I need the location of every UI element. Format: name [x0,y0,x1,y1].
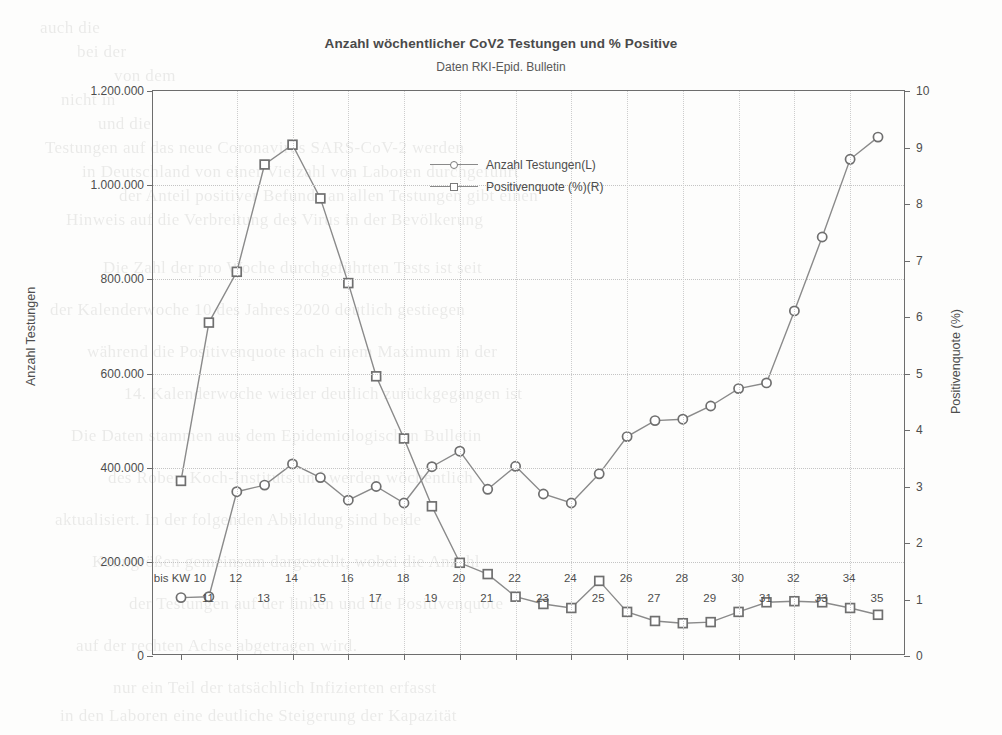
y-axis-tick-left [147,656,153,657]
x-axis-tick-label: 35 [871,592,884,604]
series-line-positivenquote [181,145,878,624]
x-axis-tick-label: 19 [425,592,438,604]
data-point-marker [316,194,325,203]
gridline-horizontal [153,562,904,563]
y-axis-tick-right [904,317,910,318]
y-axis-tick-label-left: 0 [24,649,144,663]
data-point-marker [205,318,214,327]
y-axis-tick-label-right: 3 [916,480,976,494]
y-axis-tick-right [904,374,910,375]
y-axis-tick-label-left: 1.000.000 [24,178,144,192]
legend-label-positivenquote: Positivenquote (%)(R) [486,180,603,194]
gridline-vertical [404,91,405,654]
data-point-marker [483,570,492,579]
y-axis-tick-right [904,543,910,544]
gridline-vertical [627,91,628,654]
x-axis-tick-label: 24 [564,572,577,584]
x-axis-tick [181,654,182,660]
y-axis-tick-label-left: 1.200.000 [24,84,144,98]
x-axis-tick [850,654,851,660]
x-axis-tick-label: bis KW 10 [154,572,206,584]
y-axis-tick-right [904,656,910,657]
gridline-vertical [348,91,349,654]
x-axis-tick [404,654,405,660]
y-axis-tick-label-right: 10 [916,84,976,98]
y-axis-tick-label-right: 0 [916,649,976,663]
y-axis-tick-right [904,487,910,488]
y-axis-tick-left [147,185,153,186]
data-point-marker [873,133,882,142]
x-axis-tick-label: 34 [843,572,856,584]
data-point-marker [706,618,715,627]
gridline-horizontal [153,374,904,375]
x-axis-tick [516,654,517,660]
data-point-marker [539,489,548,498]
gridline-horizontal [153,468,904,469]
data-point-marker [260,481,269,490]
y-axis-tick-label-right: 8 [916,197,976,211]
y-axis-tick-label-left: 200.000 [24,555,144,569]
x-axis-tick-label: 15 [313,592,326,604]
x-axis-tick-label: 20 [452,572,465,584]
x-axis-tick [460,654,461,660]
series-line-testungen [181,137,878,597]
x-axis-tick-label: 21 [480,592,493,604]
y-axis-tick-right [904,148,910,149]
gridline-vertical [850,91,851,654]
data-point-marker [874,610,883,619]
scanned-page: auch diebei dervon demnicht inund dieTes… [0,0,1002,735]
chart-title: Anzahl wöchentlicher CoV2 Testungen und … [0,36,1002,51]
y-axis-tick-label-right: 5 [916,367,976,381]
data-point-marker [176,593,185,602]
data-point-marker [595,577,604,586]
x-axis-tick-label: 29 [703,592,716,604]
x-axis-tick-label: 28 [675,572,688,584]
y-axis-title-right: Positivenquote (%) [949,309,963,414]
x-axis-tick [348,654,349,660]
data-point-marker [177,477,186,486]
x-axis-tick-label: 31 [759,592,772,604]
chart-legend: Anzahl Testungen(L) Positivenquote (%)(R… [430,154,603,198]
x-axis-tick [739,654,740,660]
x-axis-tick-label: 14 [285,572,298,584]
data-point-marker [762,378,771,387]
y-axis-tick-right [904,600,910,601]
gridline-vertical [293,91,294,654]
legend-item-positivenquote: Positivenquote (%)(R) [430,176,603,198]
x-axis-tick-label: 33 [815,592,828,604]
data-point-marker [372,482,381,491]
y-axis-tick-left [147,468,153,469]
x-axis-tick [627,654,628,660]
y-axis-tick-label-right: 4 [916,423,976,437]
y-axis-tick-left [147,562,153,563]
x-axis-tick-label: 27 [648,592,661,604]
data-point-marker [260,160,269,169]
x-axis-tick-label: 23 [536,592,549,604]
x-axis-tick-label: 11 [202,592,214,604]
data-point-marker [595,469,604,478]
gridline-vertical [237,91,238,654]
x-axis-tick-label: 16 [341,572,354,584]
y-axis-tick-label-right: 1 [916,593,976,607]
x-axis-tick [293,654,294,660]
y-axis-tick-right [904,430,910,431]
y-axis-tick-label-left: 800.000 [24,272,144,286]
x-axis-tick-label: 32 [787,572,800,584]
data-point-marker [818,232,827,241]
chart-subtitle: Daten RKI-Epid. Bulletin [0,60,1002,74]
gridline-vertical [739,91,740,654]
x-axis-tick-label: 26 [620,572,633,584]
x-axis-tick-label: 22 [508,572,521,584]
y-axis-tick-label-right: 2 [916,536,976,550]
data-point-marker [316,473,325,482]
gridline-vertical [794,91,795,654]
data-point-marker [483,485,492,494]
x-axis-tick-label: 30 [731,572,744,584]
x-axis-tick [683,654,684,660]
x-axis-tick [571,654,572,660]
y-axis-tick-label-right: 7 [916,254,976,268]
circle-marker-icon [430,158,478,172]
y-axis-tick-right [904,91,910,92]
data-point-marker [706,401,715,410]
x-axis-tick-label: 17 [369,592,382,604]
